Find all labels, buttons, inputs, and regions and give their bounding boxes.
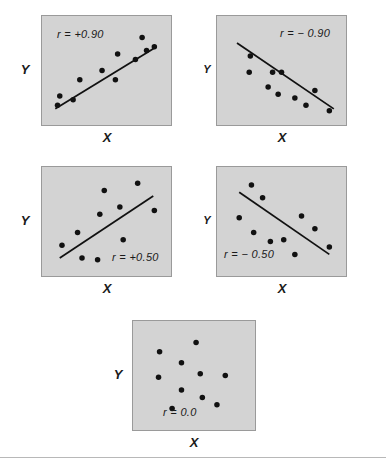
trendline <box>237 43 334 109</box>
data-point <box>260 195 266 200</box>
data-point <box>179 387 185 392</box>
data-point <box>99 68 105 73</box>
x-axis-label: X <box>266 131 298 144</box>
x-axis-label: X <box>178 436 210 449</box>
data-point <box>55 102 61 107</box>
x-axis-label: X <box>91 282 123 295</box>
data-point <box>200 395 206 400</box>
correlation-annotation: r = − 0.50 <box>224 248 274 260</box>
data-point <box>75 230 81 235</box>
panel-r-minus-050: Y r = − 0.50 X <box>190 151 386 301</box>
trendline <box>60 196 153 258</box>
data-point <box>133 57 139 62</box>
data-point <box>117 204 123 209</box>
data-point <box>251 230 257 235</box>
data-point <box>268 239 274 244</box>
y-axis-label: Y <box>17 63 33 76</box>
data-point <box>292 95 298 100</box>
data-point <box>299 213 305 218</box>
data-point <box>312 226 318 231</box>
data-point <box>193 340 199 345</box>
data-point <box>57 93 63 98</box>
data-point <box>198 371 204 376</box>
footer-divider <box>0 457 386 458</box>
plot-area-r-minus-050 <box>216 166 347 277</box>
data-point <box>152 44 158 49</box>
data-point <box>303 102 309 107</box>
y-axis-label: Y <box>199 64 215 75</box>
data-point <box>249 182 255 187</box>
data-points <box>246 53 332 113</box>
y-axis-label: Y <box>199 215 215 226</box>
x-axis-label: X <box>266 282 298 295</box>
data-point <box>156 375 162 380</box>
data-point <box>246 70 252 75</box>
data-point <box>135 180 141 185</box>
data-point <box>214 402 220 407</box>
data-point <box>279 70 285 75</box>
correlation-annotation: r = − 0.90 <box>280 27 330 39</box>
correlation-scatterplot-figure: Y r = +0.90 X Y r = − 0.90 X Y <box>0 0 386 471</box>
y-axis-label: Y <box>17 214 33 227</box>
correlation-annotation: r = 0.0 <box>163 406 197 418</box>
data-point <box>179 360 185 365</box>
panel-r-zero: Y r = 0.0 X <box>96 305 292 455</box>
panel-r-plus-090: Y r = +0.90 X <box>0 0 190 150</box>
data-point <box>292 252 298 257</box>
data-points <box>156 340 228 411</box>
data-point <box>77 77 83 82</box>
data-point <box>281 237 287 242</box>
correlation-annotation: r = +0.50 <box>112 251 159 263</box>
data-point <box>312 88 318 93</box>
data-point <box>236 215 242 220</box>
panel-r-plus-050: Y r = +0.50 X <box>0 151 190 301</box>
data-point <box>265 84 271 89</box>
data-point <box>115 51 121 56</box>
data-point <box>144 48 150 53</box>
data-point <box>59 242 65 247</box>
data-point <box>152 208 158 213</box>
data-point <box>95 257 101 262</box>
data-point <box>275 91 281 96</box>
data-point <box>327 108 333 113</box>
panel-r-minus-090: Y r = − 0.90 X <box>190 0 386 150</box>
data-point <box>102 188 108 193</box>
trendline <box>239 192 329 254</box>
data-point <box>120 237 126 242</box>
data-point <box>157 349 163 354</box>
data-point <box>139 35 145 40</box>
data-point <box>270 70 276 75</box>
data-point <box>70 97 76 102</box>
x-axis-label: X <box>91 131 123 144</box>
data-point <box>223 373 229 378</box>
data-point <box>79 255 85 260</box>
data-point <box>327 244 333 249</box>
y-axis-label: Y <box>110 368 126 381</box>
data-point <box>113 77 119 82</box>
data-points <box>55 35 157 108</box>
data-point <box>248 53 254 58</box>
correlation-annotation: r = +0.90 <box>57 28 104 40</box>
data-point <box>97 211 103 216</box>
